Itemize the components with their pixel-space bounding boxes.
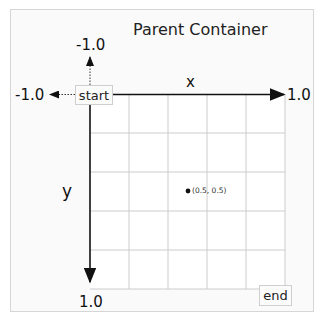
start-label: start	[79, 88, 109, 103]
neg-x-label: -1.0	[15, 86, 44, 104]
pos-y-label: 1.0	[79, 293, 103, 311]
neg-y-label: -1.0	[76, 36, 105, 54]
point-label: (0.5, 0.5)	[192, 186, 226, 195]
axes-and-grid	[0, 0, 324, 326]
y-axis-name: y	[62, 181, 72, 201]
end-label: end	[263, 288, 288, 303]
point-marker	[186, 189, 191, 194]
origin-start-box: start	[75, 85, 113, 105]
pos-x-label: 1.0	[287, 86, 311, 104]
x-axis-name: x	[186, 73, 195, 91]
end-box: end	[259, 285, 292, 306]
